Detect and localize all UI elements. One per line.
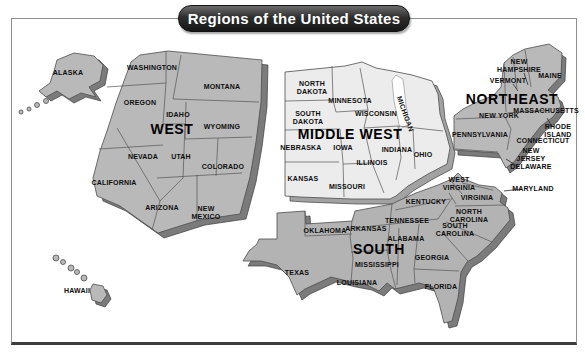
- alaska-shape: [19, 53, 108, 114]
- aleutian-island: [35, 103, 40, 108]
- hawaii-island: [61, 260, 66, 265]
- northeast-region-shape: [454, 44, 562, 168]
- hawaii-island: [53, 255, 59, 261]
- map-figure: Regions of the United States ALASKA WASH…: [0, 0, 585, 354]
- title-banner: Regions of the United States: [178, 5, 410, 32]
- aleutian-island: [44, 99, 49, 104]
- hawaii-shape: [53, 255, 111, 307]
- west-region-shape: [93, 51, 262, 233]
- us-regions-map: [0, 0, 585, 354]
- maryland-leader-line: [504, 189, 521, 191]
- west-region: [93, 51, 268, 238]
- hawaii-island: [68, 265, 74, 271]
- aleutian-island: [27, 107, 31, 111]
- hawaii-island: [75, 270, 80, 275]
- middle-west-region: [285, 62, 455, 204]
- hawaii-island: [81, 275, 87, 281]
- aleutian-island: [19, 110, 23, 114]
- northeast-region: [454, 44, 566, 173]
- page-title: Regions of the United States: [188, 10, 401, 27]
